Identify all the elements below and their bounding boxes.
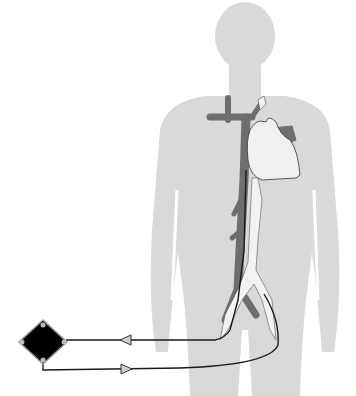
flow-arrow-return [121, 364, 132, 374]
flow-arrow-drainage [120, 335, 131, 345]
pump-oxygenator [19, 320, 67, 364]
diagram-canvas [0, 0, 356, 396]
circulation-diagram [0, 0, 356, 396]
